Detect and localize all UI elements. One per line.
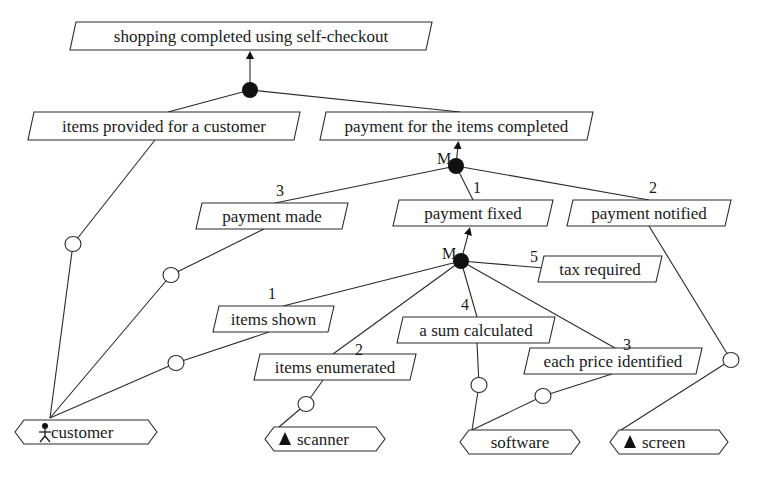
goal-label: payment notified: [591, 204, 707, 223]
goal-label: items provided for a customer: [62, 117, 266, 136]
agent-screen[interactable]: screen: [610, 430, 728, 454]
refinement-node-payment[interactable]: M: [437, 150, 464, 174]
agent-customer[interactable]: customer: [15, 420, 157, 444]
responsibility-link: [471, 343, 487, 430]
refinement-link: [250, 90, 460, 112]
responsibility-line: [73, 140, 155, 244]
diagram-canvas: shopping completed using self-checkoutit…: [0, 0, 766, 483]
goal-label: payment fixed: [424, 204, 522, 223]
goal-label: tax required: [559, 260, 641, 279]
goal-tax-required[interactable]: tax required: [538, 256, 662, 282]
goal-sum-calculated[interactable]: a sum calculated: [397, 317, 555, 343]
responsibility-line: [176, 332, 269, 363]
responsibility-links-layer: [50, 140, 739, 430]
goal-items-shown[interactable]: items shown: [213, 306, 334, 332]
responsibility-link: [50, 332, 269, 418]
agent-label: scanner: [297, 430, 349, 449]
goal-payment-notified[interactable]: payment notified: [567, 200, 731, 226]
order-number: 1: [473, 179, 481, 196]
goal-root[interactable]: shopping completed using self-checkout: [70, 22, 432, 50]
milestone-label: M: [437, 150, 451, 167]
goal-price-identified[interactable]: each price identified: [524, 348, 702, 374]
refinement-link: [275, 166, 456, 203]
refinement-node-root[interactable]: [242, 82, 258, 98]
goal-label: shopping completed using self-checkout: [114, 27, 389, 46]
responsibility-line: [472, 396, 543, 430]
agent-scanner[interactable]: scanner: [265, 427, 385, 451]
order-number: 4: [461, 296, 469, 313]
responsibility-line: [171, 229, 264, 275]
and-refinement-dot-icon: [242, 82, 258, 98]
refinement-node-fixed[interactable]: M: [442, 245, 469, 269]
agent-label: screen: [642, 433, 686, 452]
goal-label: a sum calculated: [419, 321, 533, 340]
goal-label: items enumerated: [275, 358, 396, 377]
order-number: 5: [530, 248, 538, 265]
refinement-link: [456, 166, 649, 200]
goal-label: payment for the items completed: [345, 117, 569, 136]
responsibility-link: [472, 374, 612, 430]
responsibility-link: [279, 380, 323, 427]
goal-payment-made[interactable]: payment made: [196, 203, 348, 229]
order-number: 3: [623, 336, 631, 353]
responsibility-circle-icon[interactable]: [535, 389, 551, 404]
agent-software[interactable]: software: [460, 430, 580, 454]
order-number: 3: [276, 182, 284, 199]
milestone-label: M: [442, 245, 456, 262]
goal-items-enumerated[interactable]: items enumerated: [254, 354, 416, 380]
agent-label: software: [491, 433, 550, 452]
order-number: 2: [649, 179, 657, 196]
responsibility-circle-icon[interactable]: [471, 378, 487, 393]
agents-layer: customerscannersoftwarescreen: [15, 420, 728, 454]
responsibility-line: [649, 226, 731, 360]
responsibility-line: [50, 363, 176, 418]
responsibility-link: [50, 140, 155, 418]
refinement-nodes-layer: MM: [242, 82, 469, 269]
order-number: 1: [268, 285, 276, 302]
order-number: 2: [355, 341, 363, 358]
goals-layer: shopping completed using self-checkoutit…: [28, 22, 731, 380]
goal-label: items shown: [231, 310, 317, 329]
responsibility-circle-icon[interactable]: [163, 268, 179, 283]
responsibility-circle-icon[interactable]: [168, 356, 184, 371]
goal-model-diagram: shopping completed using self-checkoutit…: [0, 0, 766, 483]
responsibility-circle-icon[interactable]: [723, 353, 739, 368]
goal-label: each price identified: [544, 352, 683, 371]
agent-label: customer: [51, 423, 114, 442]
responsibility-circle-icon[interactable]: [65, 237, 81, 252]
refinement-link: [168, 90, 250, 112]
goal-label: payment made: [222, 207, 322, 226]
responsibility-circle-icon[interactable]: [298, 397, 314, 412]
goal-items-provided[interactable]: items provided for a customer: [28, 112, 300, 140]
responsibility-line: [50, 244, 73, 418]
responsibility-line: [50, 275, 171, 418]
responsibility-line: [543, 374, 612, 396]
goal-payment-completed[interactable]: payment for the items completed: [320, 112, 593, 140]
refinement-link: [283, 261, 461, 306]
goal-payment-fixed[interactable]: payment fixed: [393, 200, 553, 226]
